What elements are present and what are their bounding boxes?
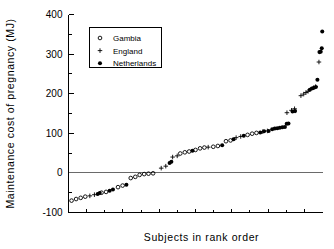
legend: GambiaEnglandNetherlands (90, 28, 162, 69)
data-point-netherlands (220, 143, 224, 147)
data-point-netherlands (314, 85, 318, 89)
data-point-netherlands (320, 30, 324, 34)
data-point-netherlands (286, 121, 290, 125)
series-england (88, 60, 322, 198)
data-point-england (170, 155, 175, 160)
chart-figure: -1000100200300400Subjects in rank orderM… (0, 0, 334, 249)
data-point-gambia (121, 184, 125, 188)
data-point-gambia (255, 131, 259, 135)
y-axis-tick-label: 200 (46, 88, 63, 99)
data-point-netherlands (232, 137, 236, 141)
data-point-netherlands (319, 50, 323, 54)
data-point-netherlands (320, 46, 324, 50)
data-point-gambia (183, 150, 187, 154)
legend-label-netherlands: Netherlands (113, 59, 156, 68)
series-gambia (70, 131, 259, 202)
data-point-gambia (104, 190, 108, 194)
data-point-gambia (187, 150, 191, 154)
data-point-netherlands (124, 183, 128, 187)
data-point-england (159, 166, 164, 171)
data-point-netherlands (258, 130, 262, 134)
y-axis-tick-label: 400 (46, 9, 63, 20)
data-point-gambia (79, 196, 83, 200)
data-point-england (206, 145, 211, 150)
data-point-gambia (133, 175, 137, 179)
data-point-england (88, 194, 93, 199)
data-point-england (285, 110, 290, 115)
scatter-plot: -1000100200300400Subjects in rank orderM… (0, 0, 334, 249)
data-point-england (317, 60, 322, 65)
data-point-netherlands (267, 129, 271, 133)
data-point-gambia (216, 144, 220, 148)
y-axis-tick-label: 100 (46, 128, 63, 139)
data-point-netherlands (315, 78, 319, 82)
x-axis-label: Subjects in rank order (144, 231, 259, 243)
data-point-gambia (129, 176, 133, 180)
data-point-gambia (246, 133, 250, 137)
data-point-gambia (250, 132, 254, 136)
data-point-england (164, 164, 169, 169)
y-axis-tick-label: 300 (46, 49, 63, 60)
data-point-netherlands (242, 134, 246, 138)
legend-marker-netherlands (98, 61, 102, 65)
data-point-netherlands (98, 61, 102, 65)
y-axis-label: Maintenance cost of pregnancy (MJ) (4, 18, 16, 208)
y-axis-tick-label: -100 (42, 207, 62, 218)
data-point-gambia (138, 173, 142, 177)
data-point-gambia (224, 139, 228, 143)
data-point-gambia (203, 146, 207, 150)
data-point-netherlands (111, 188, 115, 192)
legend-label-england: England (113, 47, 142, 56)
data-point-netherlands (169, 160, 173, 164)
data-point-gambia (198, 147, 202, 151)
data-point-gambia (70, 199, 74, 203)
data-point-gambia (74, 197, 78, 201)
data-point-netherlands (98, 191, 102, 195)
data-point-gambia (83, 195, 87, 199)
data-point-netherlands (293, 109, 297, 113)
data-point-gambia (178, 152, 182, 156)
data-point-gambia (116, 185, 120, 189)
data-point-gambia (211, 145, 215, 149)
legend-label-gambia: Gambia (113, 34, 142, 43)
data-point-netherlands (262, 129, 266, 133)
y-axis-tick-label: 0 (57, 167, 63, 178)
data-point-netherlands (190, 149, 194, 153)
